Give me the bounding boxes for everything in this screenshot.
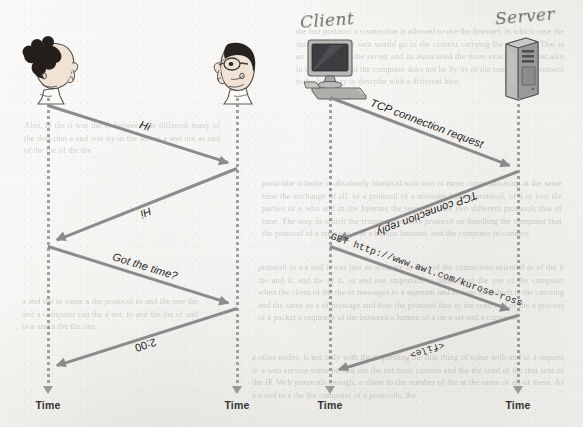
- time-label-server: Time: [493, 399, 543, 411]
- handwritten-label-client: Client: [299, 8, 354, 32]
- message-label-right-2: TCP connection reply: [375, 190, 479, 239]
- diagram-canvas: the last protocol a connection is allowe…: [0, 0, 583, 427]
- message-label-left-2: Hi: [139, 205, 153, 220]
- lifeline-arrowhead-client: [325, 386, 335, 394]
- message-arrow-right-3: [330, 245, 510, 311]
- message-label-right-1: TCP connection request: [369, 96, 485, 150]
- message-label-left-1: Hi: [138, 118, 152, 133]
- lifeline-arrowhead-man: [232, 386, 242, 394]
- message-arrow-left-2: [56, 167, 238, 241]
- paper-speckle: [0, 0, 583, 427]
- message-arrow-right-1: [329, 96, 510, 167]
- message-arrow-left-3: [48, 245, 229, 304]
- message-arrow-left-4: [56, 307, 237, 367]
- message-label-right-3: GET http://www.awl.com/kurose-ross: [329, 231, 524, 308]
- message-arrow-right-4: [338, 314, 518, 371]
- lifeline-arrowhead-server: [513, 386, 523, 394]
- lifeline-man: [236, 98, 239, 386]
- time-label-client: Time: [305, 399, 355, 411]
- paper-texture: [0, 0, 583, 427]
- time-label-woman: Time: [23, 399, 73, 411]
- lifeline-woman: [47, 98, 50, 386]
- desktop-computer-icon: [300, 38, 368, 100]
- message-arrow-right-2: [338, 170, 519, 242]
- server-tower-icon: [498, 34, 546, 102]
- man-head-glasses-profile-icon: [208, 34, 270, 104]
- message-arrow-left-1: [48, 104, 229, 164]
- lifeline-server: [517, 98, 520, 386]
- woman-head-profile-icon: [18, 32, 84, 104]
- time-label-man: Time: [212, 399, 262, 411]
- handwritten-label-server: Server: [494, 3, 556, 28]
- lifeline-arrowhead-woman: [43, 386, 53, 394]
